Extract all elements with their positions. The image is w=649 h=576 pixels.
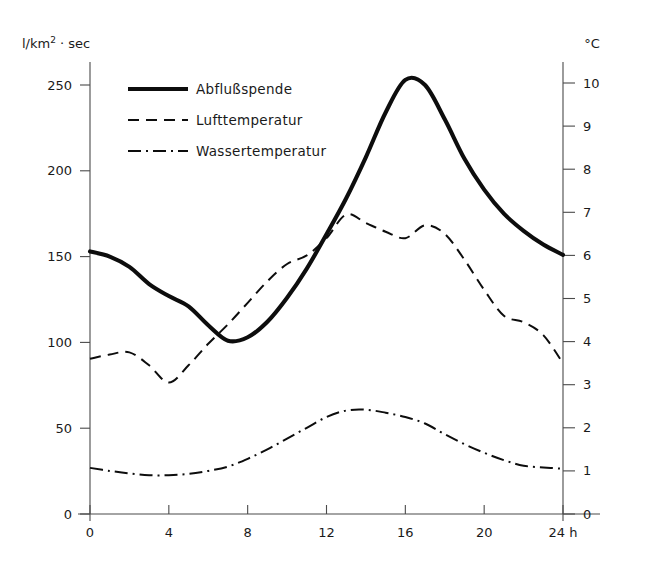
chart-figure: 050100150200250 012345678910 04812162024… — [0, 0, 649, 576]
y-right-tick-label: 4 — [583, 334, 591, 349]
y-right-tick-label: 5 — [583, 291, 591, 306]
legend-label: Lufttemperatur — [196, 112, 303, 128]
y-right-tick-label: 7 — [583, 205, 591, 220]
x-tick-label: 4 — [165, 525, 173, 540]
discharge-air-water-temperature-chart: 050100150200250 012345678910 04812162024… — [0, 0, 649, 576]
x-tick-label: 16 — [397, 525, 414, 540]
x-tick-label: 0 — [86, 525, 94, 540]
legend-label: Wassertemperatur — [196, 143, 326, 159]
y-right-tick-label: 2 — [583, 420, 591, 435]
y-right-axis-label: °C — [584, 36, 600, 51]
chart-background — [0, 0, 649, 576]
y-right-tick-label: 3 — [583, 377, 591, 392]
x-tick-label: 8 — [244, 525, 252, 540]
y-left-tick-label: 250 — [47, 78, 72, 93]
x-tick-label: 12 — [318, 525, 335, 540]
x-tick-label: 20 — [476, 525, 493, 540]
y-left-tick-label: 0 — [64, 507, 72, 522]
y-left-tick-label: 100 — [47, 335, 72, 350]
y-left-axis-label-suffix: · sec — [56, 36, 90, 51]
y-left-tick-label: 150 — [47, 249, 72, 264]
y-left-tick-label: 50 — [55, 421, 72, 436]
y-right-tick-label: 1 — [583, 463, 591, 478]
legend-label: Abflußspende — [196, 81, 292, 97]
y-left-tick-label: 200 — [47, 163, 72, 178]
y-left-axis-label-prefix: l/km — [22, 36, 50, 51]
y-right-tick-label: 8 — [583, 162, 591, 177]
y-left-axis-label: l/km2 · sec — [22, 35, 90, 51]
y-right-tick-label: 10 — [583, 76, 600, 91]
y-right-tick-label: 9 — [583, 119, 591, 134]
x-tick-label: 24 h — [549, 525, 578, 540]
y-right-tick-label: 0 — [583, 507, 591, 522]
y-right-tick-label: 6 — [583, 248, 591, 263]
